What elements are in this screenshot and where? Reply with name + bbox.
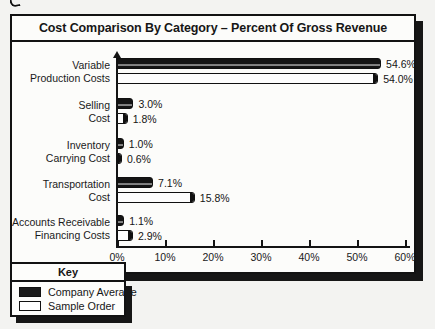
category-label: TransportationCost <box>10 178 110 203</box>
bar-company-average <box>117 58 381 69</box>
chart-panel: Cost Comparison By Category – Percent Of… <box>10 14 416 274</box>
value-label: 1.8% <box>133 113 157 125</box>
axis-tick <box>357 240 359 246</box>
plot-area: VariableProduction Costs54.6%54.0%Sellin… <box>12 42 414 272</box>
legend-header: Key <box>58 266 78 278</box>
legend-item-company-average: Company Average <box>19 286 124 298</box>
legend-box: Company Average Sample Order <box>10 280 126 317</box>
axis-tick <box>165 240 167 246</box>
legend-item-label: Sample Order <box>48 300 115 312</box>
category-label: VariableProduction Costs <box>10 59 110 84</box>
axis-tick <box>261 240 263 246</box>
value-label: 15.8% <box>200 192 230 204</box>
axis-tick <box>405 240 407 246</box>
bar-sample-order <box>117 113 128 124</box>
scanned-chart-page: { "chart_data": { "type": "bar", "orient… <box>0 0 435 329</box>
cropped-caption-fragment-icon <box>9 0 20 8</box>
axis-tick <box>213 240 215 246</box>
bar-company-average <box>117 138 124 149</box>
bar-sample-order <box>117 73 378 84</box>
chart-title: Cost Comparison By Category – Percent Of… <box>12 16 414 42</box>
axis-tick-label: 60% <box>385 251 425 263</box>
legend-item-sample-order: Sample Order <box>19 300 124 312</box>
company-average-swatch-icon <box>19 287 41 297</box>
axis-tick-label: 30% <box>241 251 281 263</box>
bar-sample-order <box>117 153 122 164</box>
value-label: 54.0% <box>383 73 413 85</box>
bar-company-average <box>117 98 133 109</box>
x-axis-line <box>116 246 410 248</box>
legend-item-label: Company Average <box>48 286 137 298</box>
bar-company-average <box>117 177 153 188</box>
value-label: 54.6% <box>386 58 416 70</box>
axis-tick-label: 20% <box>193 251 233 263</box>
legend-header-box: Key <box>10 262 126 282</box>
category-label: Accounts ReceivableFinancing Costs <box>10 216 110 241</box>
category-label: SellingCost <box>10 99 110 124</box>
value-label: 3.0% <box>138 98 162 110</box>
value-label: 1.0% <box>129 138 153 150</box>
bar-company-average <box>117 215 124 226</box>
value-label: 0.6% <box>127 153 151 165</box>
axis-tick-label: 40% <box>289 251 329 263</box>
bar-sample-order <box>117 230 133 241</box>
axis-tick <box>117 240 119 246</box>
category-label: InventoryCarrying Cost <box>10 139 110 164</box>
value-label: 1.1% <box>129 215 153 227</box>
value-label: 7.1% <box>158 177 182 189</box>
axis-tick-label: 10% <box>145 251 185 263</box>
value-label: 2.9% <box>138 230 162 242</box>
sample-order-swatch-icon <box>19 301 41 311</box>
bar-sample-order <box>117 192 195 203</box>
axis-tick-label: 50% <box>337 251 377 263</box>
axis-tick <box>309 240 311 246</box>
